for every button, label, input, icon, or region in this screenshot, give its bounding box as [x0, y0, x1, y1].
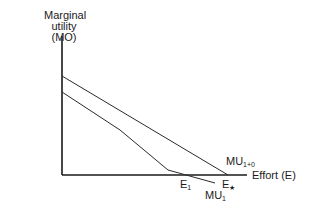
e1-sub: 1	[187, 184, 191, 191]
mu-1-plus-0-sub: 1+0	[243, 161, 255, 168]
star-icon: ★	[229, 184, 235, 191]
mu-1-plus-0-main: MU	[226, 155, 243, 167]
x-axis-label: Effort (E)	[252, 169, 296, 181]
e1-label: E1	[180, 178, 191, 194]
y-axis-label: Marginal utility (MO)	[44, 10, 84, 43]
e-star-label: E★	[222, 178, 235, 194]
curve-mu-1	[62, 92, 215, 183]
curve-mu-1-plus-0	[62, 76, 228, 175]
mu-1-plus-0-label: MU1+0	[226, 155, 255, 171]
y-label-line-3: (MO)	[44, 32, 84, 43]
mu-1-sub: 1	[222, 195, 226, 202]
mu-1-main: MU	[205, 189, 222, 201]
